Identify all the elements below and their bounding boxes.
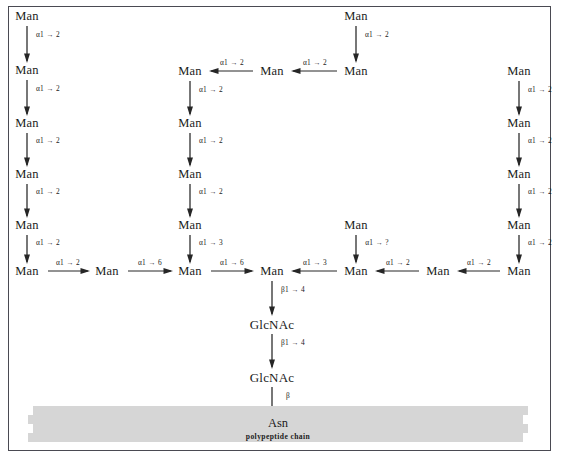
linkage-label-l2-l3: α1 → 2 [36,85,60,92]
residue-glcnac-c3: GlcNAc [250,371,295,384]
residue-man-m5: Man [178,265,202,278]
linkage-label-l4-l5: α1 → 2 [36,188,60,195]
residue-man-m3: Man [178,168,202,181]
linkage-label-m2-m3: α1 → 2 [199,137,223,144]
residue-man-m2: Man [178,117,202,130]
residue-man-m1: Man [178,65,202,78]
linkage-label-r2-r1: α1 → 2 [386,259,410,266]
linkage-label-rr4-rr3: α1 → 2 [528,137,552,144]
residue-man-rr3: Man [507,168,531,181]
residue-man-c1: Man [260,265,284,278]
residue-man-t1: Man [260,65,284,78]
linkage-label-rr5-rr4: α1 → 2 [528,86,552,93]
residue-man-rr5: Man [507,65,531,78]
linkage-label-m5-c1: α1 → 6 [220,259,244,266]
linkage-label-b1-m5: α1 → 6 [138,259,162,266]
residue-man-t0: Man [344,10,368,23]
linkage-label-c2-c3: β1 → 4 [281,339,305,346]
linkage-label-c3-asn: β [286,392,290,399]
linkage-label-l5-l6: α1 → 2 [36,239,60,246]
linkage-label-m3-m4: α1 → 2 [199,188,223,195]
residue-man-rr1: Man [507,265,531,278]
linkage-label-l6-b1: α1 → 2 [56,259,80,266]
residue-man-l1: Man [15,10,39,23]
linkage-label-l1-l2: α1 → 2 [36,31,60,38]
residue-man-b1: Man [95,265,119,278]
residue-man-l4: Man [15,168,39,181]
linkage-label-t2-t1: α1 → 2 [303,59,327,66]
linkage-label-l3-l4: α1 → 2 [36,137,60,144]
linkage-label-r1-c1: α1 → 3 [303,259,327,266]
figure-canvas: ManManManManManManManManManManManManManM… [0,0,561,464]
linkage-label-m4-m5: α1 → 3 [199,239,223,246]
polypeptide-chain-label: polypeptide chain [246,433,310,441]
polypeptide-chain-bar: Asn polypeptide chain [28,406,528,442]
residue-man-l6: Man [15,265,39,278]
asn-label: Asn [268,417,288,430]
residue-man-r1: Man [344,265,368,278]
linkage-label-rr3-rr2: α1 → 2 [528,188,552,195]
residue-man-rr4: Man [507,117,531,130]
residue-man-r2: Man [426,265,450,278]
linkage-label-t0-t2: α1 → 2 [365,31,389,38]
residue-glcnac-c2: GlcNAc [250,318,295,331]
residue-man-l5: Man [15,219,39,232]
linkage-label-c1-c2: β1 → 4 [281,286,305,293]
linkage-label-m1-m2: α1 → 2 [199,86,223,93]
residue-man-r0: Man [344,219,368,232]
residue-man-l3: Man [15,117,39,130]
residue-man-t2: Man [344,65,368,78]
residue-man-m4: Man [178,219,202,232]
linkage-label-t1-m1: α1 → 2 [220,59,244,66]
residue-man-rr2: Man [507,219,531,232]
linkage-label-r0-r1: α1 → ? [365,239,389,246]
linkage-label-rr1-r2: α1 → 2 [467,259,491,266]
linkage-label-rr2-rr1: α1 → 2 [528,239,552,246]
residue-man-l2: Man [15,64,39,77]
